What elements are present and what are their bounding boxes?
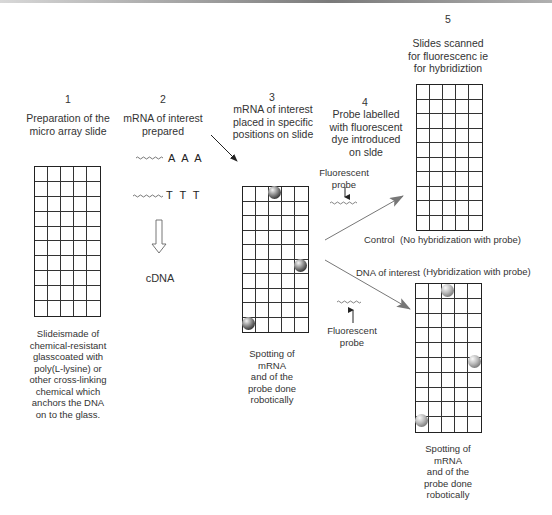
probe-strand-icon — [330, 202, 361, 303]
connector-overlay — [0, 0, 552, 515]
mrna-strand-icon — [133, 157, 163, 197]
hollow-down-arrow-icon — [152, 220, 166, 253]
arrow-to-step-3 — [211, 135, 237, 161]
